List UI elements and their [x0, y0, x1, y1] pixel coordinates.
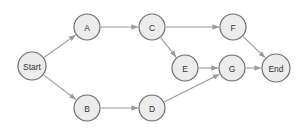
node-f: F — [220, 14, 246, 40]
edge-start-to-a — [44, 35, 75, 57]
node-e: E — [172, 55, 198, 81]
edge-f-to-end — [243, 37, 265, 58]
node-label: E — [182, 64, 188, 74]
node-label: End — [268, 64, 283, 74]
node-label: A — [84, 23, 90, 33]
node-b: B — [74, 95, 100, 121]
node-label: C — [149, 23, 155, 33]
flow-diagram: StartABCDEFGEnd — [0, 0, 306, 136]
node-d: D — [139, 95, 165, 121]
node-start: Start — [18, 52, 46, 80]
node-c: C — [139, 14, 165, 40]
node-end: End — [262, 54, 290, 82]
node-a: A — [74, 14, 100, 40]
edge-start-to-b — [44, 75, 76, 99]
node-g: G — [219, 55, 245, 81]
edge-c-to-e — [161, 38, 176, 57]
node-label: Start — [23, 62, 42, 72]
node-label: G — [229, 64, 236, 74]
node-label: F — [230, 23, 235, 33]
node-label: B — [84, 104, 90, 114]
node-label: D — [149, 104, 155, 114]
